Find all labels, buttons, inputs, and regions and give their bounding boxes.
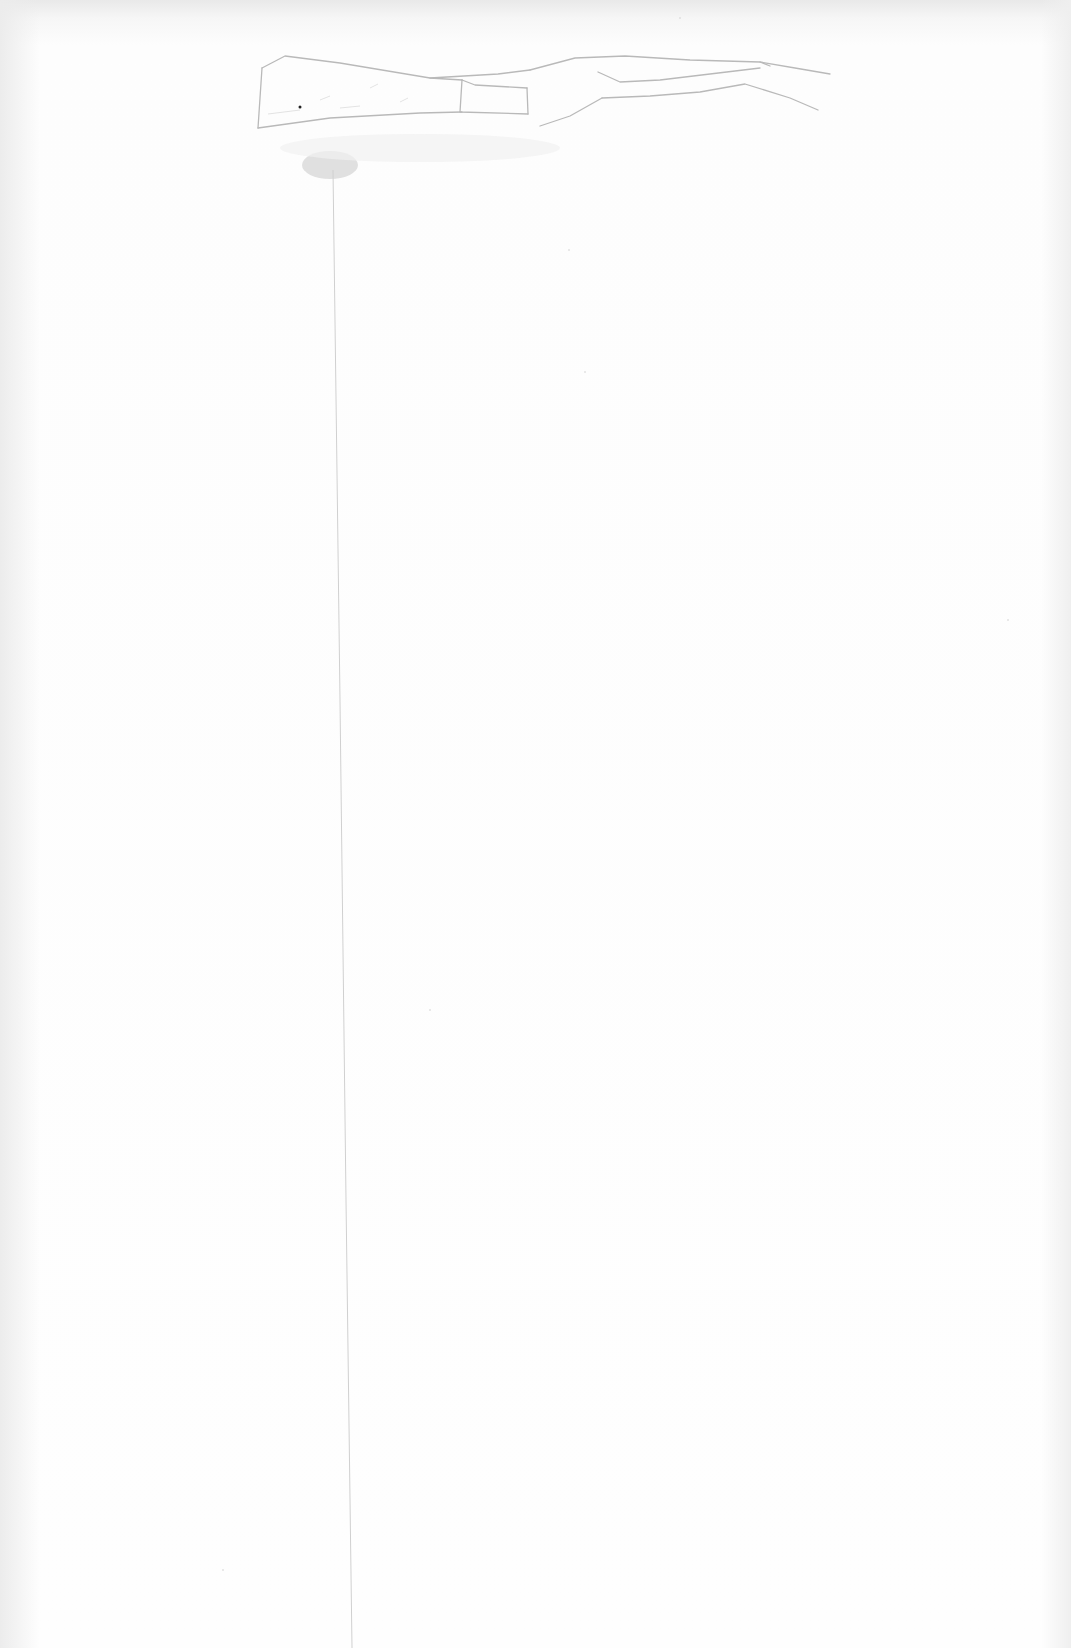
vertical-pencil-line <box>333 170 352 1648</box>
pencil-sketch <box>0 0 1071 1648</box>
paper-specks <box>222 17 1009 1571</box>
ink-dot <box>299 106 302 109</box>
shading-marks <box>268 84 408 114</box>
branch-outline <box>258 56 830 128</box>
